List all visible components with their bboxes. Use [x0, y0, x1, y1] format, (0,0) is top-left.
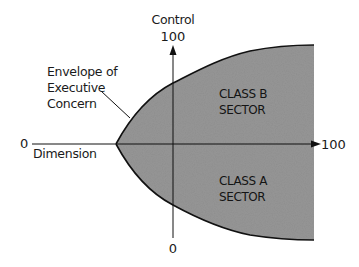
envelope-region	[116, 45, 314, 240]
class-a-sector-label-line2: SECTOR	[219, 190, 265, 204]
horizontal-axis-arrowhead	[311, 141, 321, 148]
vertical-axis-title: Control	[151, 12, 194, 27]
horizontal-axis-title: Dimension	[33, 146, 97, 161]
envelope-label-line1: Envelope of	[47, 64, 118, 79]
vertical-axis-max-label: 100	[161, 29, 186, 44]
executive-concern-diagram: Control 100 0 0 Dimension 100 Envelope o…	[0, 0, 359, 267]
vertical-axis-arrowhead	[170, 45, 177, 55]
envelope-leader-line	[101, 91, 130, 118]
class-b-sector-label-line2: SECTOR	[219, 103, 265, 117]
envelope-label-line3: Concern	[47, 96, 97, 111]
vertical-axis-min-label: 0	[169, 241, 177, 256]
horizontal-axis-min-label: 0	[20, 136, 28, 151]
envelope-label-line2: Executive	[47, 80, 106, 95]
class-a-sector-label-line1: CLASS A	[219, 174, 268, 188]
class-b-sector-label-line1: CLASS B	[219, 87, 267, 101]
horizontal-axis-max-label: 100	[321, 137, 346, 152]
